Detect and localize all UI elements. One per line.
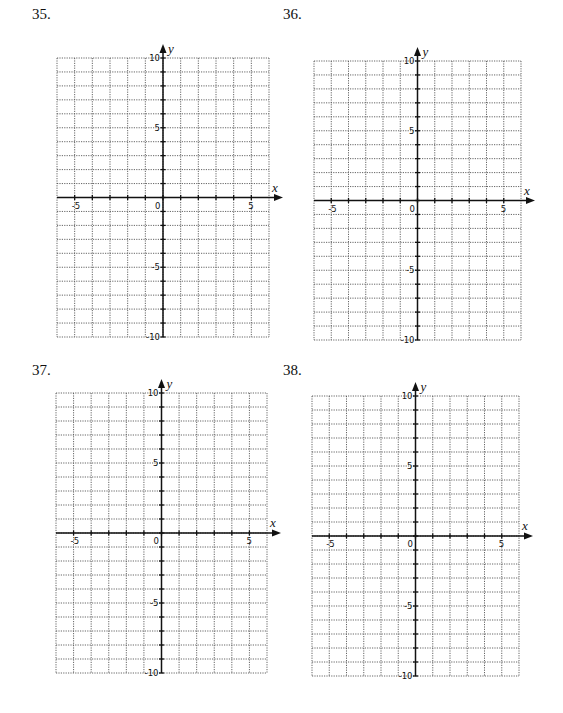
y-axis-label: y [419, 379, 427, 394]
y-tick-label: 5 [155, 123, 160, 133]
y-tick-label: -10 [399, 671, 413, 681]
y-axis-arrow-icon [158, 379, 165, 388]
y-tick-label: -5 [406, 265, 414, 275]
x-tick-label: 5 [499, 539, 504, 549]
x-tick-label: 5 [248, 201, 253, 211]
x-axis-label: x [269, 515, 276, 530]
y-tick-label: 5 [407, 461, 412, 471]
y-axis-arrow-icon [412, 382, 419, 391]
problem-number: 37. [32, 362, 51, 379]
problem-number: 36. [283, 6, 302, 23]
coordinate-grid: -505105-5-10xy [297, 381, 534, 691]
coordinate-grid: -505105-5-10xy [41, 378, 282, 688]
y-tick-label: -10 [146, 332, 160, 342]
y-axis-label: y [421, 44, 429, 59]
coordinate-grid: -505105-5-10xy [42, 43, 284, 352]
y-axis-arrow-icon [160, 44, 167, 53]
y-tick-label: -10 [145, 668, 159, 678]
x-axis-label: x [523, 183, 530, 198]
y-axis-label: y [166, 41, 174, 56]
y-axis-label: y [165, 376, 173, 391]
x-tick-label: -5 [326, 539, 334, 549]
x-tick-label: 0 [408, 539, 413, 549]
y-axis-arrow-icon [414, 47, 421, 56]
x-tick-label: -5 [71, 536, 79, 546]
x-axis-arrow-icon [526, 197, 535, 204]
x-axis-arrow-icon [524, 533, 533, 540]
y-tick-label: 10 [402, 391, 413, 401]
x-tick-label: -5 [328, 204, 336, 214]
y-tick-label: -10 [401, 335, 415, 345]
y-tick-label: 10 [404, 56, 415, 66]
y-tick-label: 5 [409, 126, 414, 136]
x-tick-label: 5 [501, 204, 506, 214]
problem-number: 35. [32, 6, 51, 23]
x-tick-label: 5 [246, 536, 251, 546]
y-tick-label: 5 [153, 458, 158, 468]
y-tick-label: -5 [404, 601, 412, 611]
y-tick-label: 10 [149, 53, 160, 63]
x-tick-label: 0 [154, 536, 159, 546]
y-tick-label: -5 [150, 598, 158, 608]
y-tick-label: 10 [148, 388, 159, 398]
x-axis-label: x [521, 518, 528, 533]
x-axis-arrow-icon [272, 530, 281, 537]
y-tick-label: -5 [152, 262, 160, 272]
coordinate-grid: -505105-5-10xy [299, 46, 536, 355]
x-axis-arrow-icon [274, 194, 283, 201]
x-tick-label: 0 [155, 201, 160, 211]
x-tick-label: -5 [72, 201, 80, 211]
x-axis-label: x [271, 180, 278, 195]
problem-number: 38. [283, 362, 302, 379]
x-tick-label: 0 [410, 204, 415, 214]
